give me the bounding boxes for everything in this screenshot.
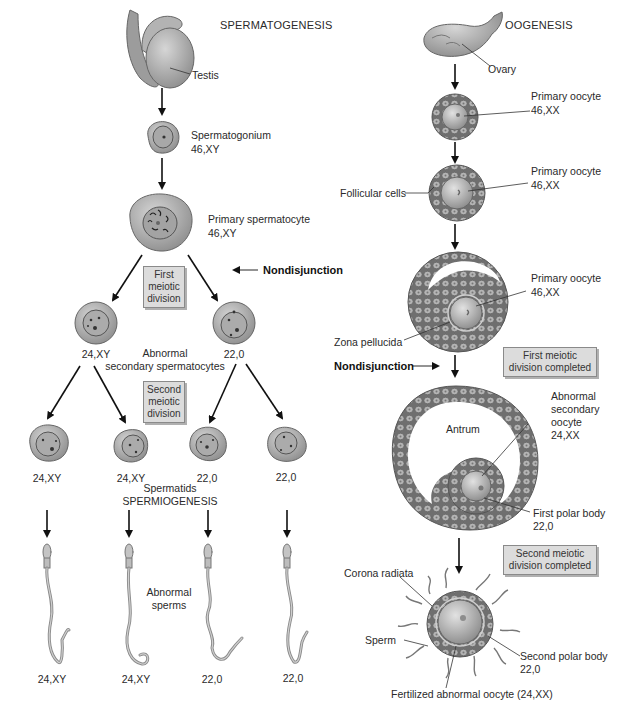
sperm-illustration <box>204 544 242 659</box>
primary-oocyte-karyotype: 46,XX <box>531 179 560 192</box>
secondary-oocyte-karyotype: 24,XX <box>551 429 580 442</box>
box-line: division completed <box>509 362 591 374</box>
second-meiotic-division-completed-box: Second meiotic division completed <box>503 545 597 575</box>
secondary-spermatocyte-karyotype: 22,0 <box>224 348 244 361</box>
spermatid-cell <box>114 430 148 462</box>
spermatid-cell <box>190 427 227 461</box>
secondary-oocyte-label-3: oocyte <box>551 416 582 429</box>
arrow <box>113 255 142 300</box>
spermatid-karyotype: 22,0 <box>197 472 217 485</box>
antral-follicle <box>392 386 538 530</box>
secondary-spermatocyte-cell <box>75 302 117 344</box>
spermatid-karyotype: 22,0 <box>276 471 296 484</box>
oogenesis-title: OOGENESIS <box>505 19 573 31</box>
arrow <box>188 255 217 300</box>
primary-spermatocyte-karyotype: 46,XY <box>208 227 237 240</box>
sperm-karyotype: 22,0 <box>283 672 303 685</box>
abnormal-sperms-label-line2: sperms <box>152 599 186 612</box>
sperm-illustration <box>283 544 307 662</box>
box-line: First meiotic <box>509 350 591 362</box>
sperm-karyotype: 22,0 <box>202 673 222 686</box>
arrow <box>48 366 80 418</box>
first-meiotic-division-completed-box: First meiotic division completed <box>503 347 597 377</box>
spermatid-cell <box>30 425 69 461</box>
primary-oocyte-karyotype: 46,XX <box>531 286 560 299</box>
arrow <box>246 364 282 418</box>
box-line: First <box>147 269 180 281</box>
arrow <box>94 366 125 422</box>
fertilized-oocyte <box>398 568 520 688</box>
box-line: meiotic <box>147 281 180 293</box>
spermatogonium-karyotype: 46,XY <box>191 143 220 156</box>
primary-oocyte-label: Primary oocyte <box>531 165 601 178</box>
primary-oocyte-label: Primary oocyte <box>531 272 601 285</box>
secondary-spermatocyte-cell <box>213 302 255 344</box>
box-line: Second <box>147 384 181 396</box>
testis-illustration <box>127 10 194 88</box>
nondisjunction-label: Nondisjunction <box>263 264 343 277</box>
spermatogonium-cell <box>148 122 179 154</box>
spermatids-label: Spermatids <box>143 482 196 495</box>
abnormal-label: Abnormal <box>143 347 188 360</box>
follicular-cells-label: Follicular cells <box>340 187 406 200</box>
ovary-illustration <box>424 12 503 66</box>
sperm-karyotype: 24,XY <box>122 673 151 686</box>
primary-oocyte-label: Primary oocyte <box>531 90 601 103</box>
antrum-label: Antrum <box>446 423 480 436</box>
box-line: meiotic <box>147 396 181 408</box>
sperm-illustration <box>43 544 69 663</box>
spermiogenesis-label: SPERMIOGENESIS <box>122 495 217 508</box>
first-polar-body-karyotype: 22,0 <box>533 520 553 533</box>
fertilized-oocyte-label: Fertilized abnormal oocyte (24,XX) <box>391 688 553 701</box>
sperm-illustration <box>125 544 148 664</box>
primary-spermatocyte-cell <box>130 194 192 251</box>
box-line: Second meiotic <box>509 548 591 560</box>
spermatid-karyotype: 24,XY <box>33 472 62 485</box>
testis-label: Testis <box>192 69 219 82</box>
spermatid-cell <box>268 427 307 461</box>
zona-pellucida-label: Zona pellucida <box>334 336 402 349</box>
spermatid-karyotype: 24,XY <box>117 472 146 485</box>
primary-spermatocyte-label: Primary spermatocyte <box>208 213 310 226</box>
nondisjunction-label: Nondisjunction <box>334 360 414 373</box>
second-polar-body-karyotype: 22,0 <box>520 663 540 676</box>
spermatogonium-label: Spermatogonium <box>191 129 271 142</box>
sperm-karyotype: 24,XY <box>38 673 67 686</box>
secondary-oocyte-label-2: secondary <box>551 403 599 416</box>
box-line: division <box>147 408 181 420</box>
primordial-follicle <box>432 94 530 140</box>
second-meiotic-division-box: Second meiotic division <box>143 381 185 423</box>
primary-oocyte-karyotype: 46,XX <box>531 104 560 117</box>
corona-radiata-label: Corona radiata <box>344 567 413 580</box>
primary-follicle <box>405 165 528 221</box>
box-line: division completed <box>509 560 591 572</box>
second-polar-body-label: Second polar body <box>520 650 608 663</box>
secondary-spermatocytes-label: secondary spermatocytes <box>105 360 225 373</box>
box-line: division <box>147 293 180 305</box>
diagram-canvas: SPERMATOGENESIS Testis Spermatogonium 46… <box>0 0 623 709</box>
first-polar-body-label: First polar body <box>533 507 605 520</box>
secondary-follicle <box>404 252 526 352</box>
spermatogenesis-title: SPERMATOGENESIS <box>220 19 333 31</box>
ovary-label: Ovary <box>488 63 516 76</box>
abnormal-sperms-label: Abnormal <box>147 586 192 599</box>
first-meiotic-division-box: First meiotic division <box>143 266 185 308</box>
sperm-label: Sperm <box>365 634 396 647</box>
secondary-oocyte-label-1: Abnormal <box>551 390 596 403</box>
